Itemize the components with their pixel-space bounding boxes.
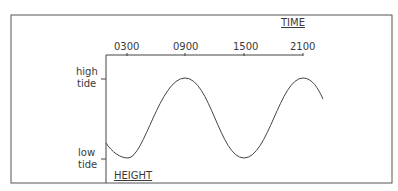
y-axis-label: HEIGHT [114,170,152,181]
x-axis-label: TIME [281,17,305,28]
tide-curve [106,78,323,158]
high-tide-label-line2: tide [77,78,96,89]
tide-chart [0,0,398,191]
low-tide-label-line2: tide [78,159,97,170]
tick-label-0300: 0300 [114,41,139,52]
tick-label-2100: 2100 [290,41,315,52]
tick-label-0900: 0900 [173,41,198,52]
low-tide-label-line1: low [78,147,95,158]
tick-label-1500: 1500 [233,41,258,52]
chart-frame [11,15,392,183]
high-tide-label-line1: high [76,66,98,77]
